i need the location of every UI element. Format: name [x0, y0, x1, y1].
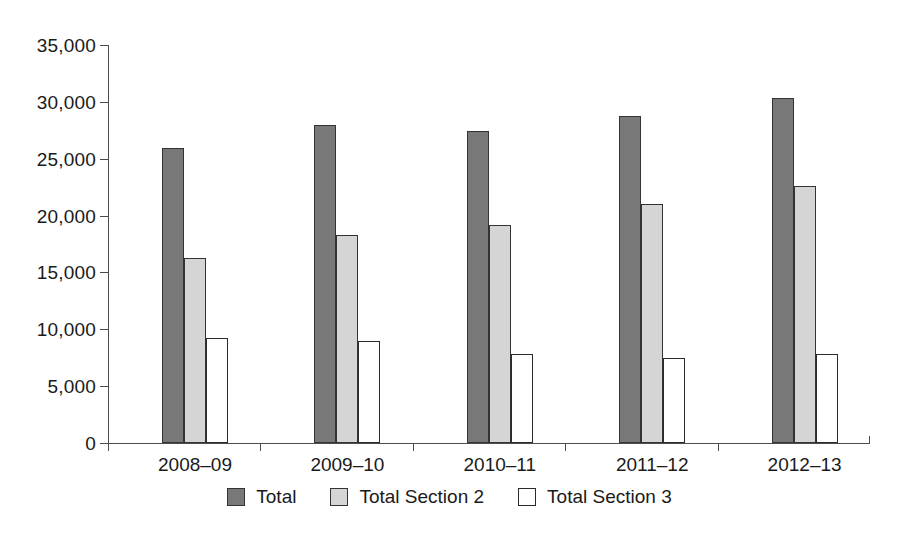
legend-swatch-icon: [330, 488, 348, 506]
x-axis-tick-label: 2012–13: [768, 454, 842, 476]
bar-2010-11-total-section-3: [511, 354, 533, 443]
bar-2010-11-total-section-2: [489, 225, 511, 443]
y-axis-tick: [100, 386, 108, 387]
legend-item-total-section-3: Total Section 3: [518, 487, 672, 507]
y-axis-tick-label: 0: [4, 434, 96, 453]
bar-2011-12-total-section-2: [641, 204, 663, 443]
x-axis-tick: [260, 443, 261, 451]
bar-2012-13-total: [772, 98, 794, 443]
legend-swatch-icon: [227, 488, 245, 506]
bar-2012-13-total-section-2: [794, 186, 816, 443]
bar-2010-11-total: [467, 131, 489, 443]
y-axis-tick-label: 35,000: [4, 36, 96, 55]
y-axis-tick-label: 20,000: [4, 206, 96, 225]
bar-chart: 05,00010,00015,00020,00025,00030,00035,0…: [0, 0, 899, 535]
y-axis-tick: [100, 102, 108, 103]
x-axis-line: [108, 443, 870, 444]
y-axis-tick: [100, 159, 108, 160]
y-axis-tick: [100, 329, 108, 330]
bar-2009-10-total-section-3: [358, 341, 380, 443]
bar-2011-12-total-section-3: [663, 358, 685, 443]
y-axis-tick-label: 25,000: [4, 149, 96, 168]
y-axis-tick: [100, 272, 108, 273]
legend-item-total: Total: [227, 487, 296, 507]
y-axis-tick: [100, 216, 108, 217]
x-axis-tick: [413, 443, 414, 451]
legend-swatch-icon: [518, 488, 536, 506]
y-axis-tick-label: 5,000: [4, 377, 96, 396]
y-axis-tick-label: 10,000: [4, 320, 96, 339]
plot-area: [108, 45, 870, 443]
x-axis-tick: [108, 443, 109, 451]
x-axis-tick-label: 2009–10: [310, 454, 384, 476]
legend-label: Total Section 3: [547, 487, 672, 507]
bar-2008-09-total: [162, 148, 184, 443]
legend-item-total-section-2: Total Section 2: [330, 487, 484, 507]
bar-2008-09-total-section-2: [184, 258, 206, 443]
bar-2009-10-total: [314, 125, 336, 443]
bar-2012-13-total-section-3: [816, 354, 838, 443]
bar-2009-10-total-section-2: [336, 235, 358, 443]
y-axis-tick-label: 15,000: [4, 263, 96, 282]
x-axis-tick-label: 2008–09: [158, 454, 232, 476]
chart-legend: TotalTotal Section 2Total Section 3: [0, 487, 899, 507]
bar-2008-09-total-section-3: [206, 338, 228, 443]
legend-label: Total: [256, 487, 296, 507]
y-axis-tick-label: 30,000: [4, 92, 96, 111]
x-axis-tick: [718, 443, 719, 451]
legend-label: Total Section 2: [359, 487, 484, 507]
x-axis-tick-label: 2010–11: [464, 454, 537, 476]
y-axis-tick: [100, 443, 108, 444]
x-axis-tick-label: 2011–12: [616, 454, 689, 476]
bar-2011-12-total: [619, 116, 641, 443]
y-axis-tick: [100, 45, 108, 46]
x-axis-tick: [565, 443, 566, 451]
